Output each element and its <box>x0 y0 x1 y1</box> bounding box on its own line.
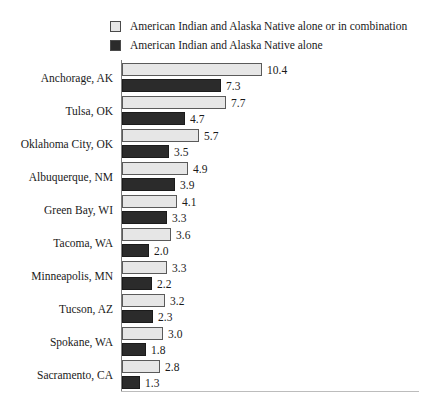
bar <box>122 129 199 142</box>
bar-row: 2.8 <box>122 360 422 373</box>
bar <box>122 112 185 125</box>
bar <box>122 145 169 158</box>
legend-item-label: American Indian and Alaska Native alone <box>130 39 323 52</box>
bar-row: 3.3 <box>122 211 422 224</box>
bar-row: 3.2 <box>122 294 422 307</box>
bar-group: Minneapolis, MN3.32.2 <box>0 261 428 290</box>
bar-value-label: 7.7 <box>226 96 245 109</box>
bar-row: 7.3 <box>122 79 422 92</box>
bar <box>122 294 165 307</box>
bar-row: 2.2 <box>122 277 422 290</box>
bar-group: Oklahoma City, OK5.73.5 <box>0 129 428 158</box>
bar-row: 3.9 <box>122 178 422 191</box>
bar <box>122 277 152 290</box>
category-label: Albuquerque, NM <box>0 170 113 183</box>
bar-group: Tacoma, WA3.62.0 <box>0 228 428 257</box>
legend-swatch-dark-square <box>110 40 121 51</box>
bar-value-label: 3.9 <box>175 178 194 191</box>
bar-row: 3.5 <box>122 145 422 158</box>
chart-legend: American Indian and Alaska Native alone … <box>110 18 420 56</box>
bar-row: 3.3 <box>122 261 422 274</box>
bar-row: 3.6 <box>122 228 422 241</box>
category-label: Tacoma, WA <box>0 236 113 249</box>
bar <box>122 79 221 92</box>
bar-row: 2.0 <box>122 244 422 257</box>
bar <box>122 343 146 356</box>
bar-group: Tulsa, OK7.74.7 <box>0 96 428 125</box>
legend-item-alone-or-in-combination: American Indian and Alaska Native alone … <box>110 18 420 35</box>
bar-value-label: 7.3 <box>221 79 240 92</box>
bar-value-label: 1.3 <box>140 376 159 389</box>
bar <box>122 376 140 389</box>
bar-group: Green Bay, WI4.13.3 <box>0 195 428 224</box>
bar-value-label: 4.9 <box>188 162 207 175</box>
bar <box>122 327 163 340</box>
bar <box>122 162 188 175</box>
category-label: Oklahoma City, OK <box>0 137 113 150</box>
bar-row: 1.3 <box>122 376 422 389</box>
bar-value-label: 3.3 <box>167 211 186 224</box>
bar-group: Spokane, WA3.01.8 <box>0 327 428 356</box>
bar <box>122 310 153 323</box>
category-label: Sacramento, CA <box>0 368 113 381</box>
category-label: Spokane, WA <box>0 335 113 348</box>
value-axis-line <box>121 391 419 392</box>
bar-group: Tucson, AZ3.22.3 <box>0 294 428 323</box>
bar-row: 1.8 <box>122 343 422 356</box>
bar-value-label: 2.3 <box>153 310 172 323</box>
bar-value-label: 4.7 <box>185 112 204 125</box>
bar <box>122 178 175 191</box>
category-label: Tulsa, OK <box>0 104 113 117</box>
bar <box>122 195 177 208</box>
bar <box>122 63 262 76</box>
bar-group: Albuquerque, NM4.93.9 <box>0 162 428 191</box>
bar-value-label: 5.7 <box>199 129 218 142</box>
bar <box>122 360 160 373</box>
category-label: Green Bay, WI <box>0 203 113 216</box>
chart-plot-area: Anchorage, AK10.47.3Tulsa, OK7.74.7Oklah… <box>0 60 428 394</box>
bar-row: 2.3 <box>122 310 422 323</box>
bar-value-label: 3.6 <box>171 228 190 241</box>
bar-value-label: 3.2 <box>165 294 184 307</box>
bar-row: 10.4 <box>122 63 422 76</box>
category-label: Minneapolis, MN <box>0 269 113 282</box>
bar-group: Sacramento, CA2.81.3 <box>0 360 428 389</box>
bar-value-label: 2.8 <box>160 360 179 373</box>
bar-value-label: 10.4 <box>262 63 287 76</box>
category-label: Anchorage, AK <box>0 71 113 84</box>
bar-row: 5.7 <box>122 129 422 142</box>
bar-row: 4.1 <box>122 195 422 208</box>
bar-value-label: 3.0 <box>163 327 182 340</box>
bar-row: 7.7 <box>122 96 422 109</box>
bar <box>122 211 167 224</box>
legend-item-label: American Indian and Alaska Native alone … <box>130 20 407 33</box>
bar <box>122 261 167 274</box>
bar-row: 3.0 <box>122 327 422 340</box>
bar-value-label: 3.3 <box>167 261 186 274</box>
bar <box>122 244 149 257</box>
bar-value-label: 1.8 <box>146 343 165 356</box>
category-label: Tucson, AZ <box>0 302 113 315</box>
bar-value-label: 4.1 <box>177 195 196 208</box>
bar-group: Anchorage, AK10.47.3 <box>0 63 428 92</box>
legend-swatch-light-gray-square <box>110 21 121 32</box>
bar-row: 4.9 <box>122 162 422 175</box>
bar-value-label: 2.0 <box>149 244 168 257</box>
bar <box>122 96 226 109</box>
bar-row: 4.7 <box>122 112 422 125</box>
bar <box>122 228 171 241</box>
bar-value-label: 3.5 <box>169 145 188 158</box>
legend-item-alone: American Indian and Alaska Native alone <box>110 37 420 54</box>
bar-value-label: 2.2 <box>152 277 171 290</box>
